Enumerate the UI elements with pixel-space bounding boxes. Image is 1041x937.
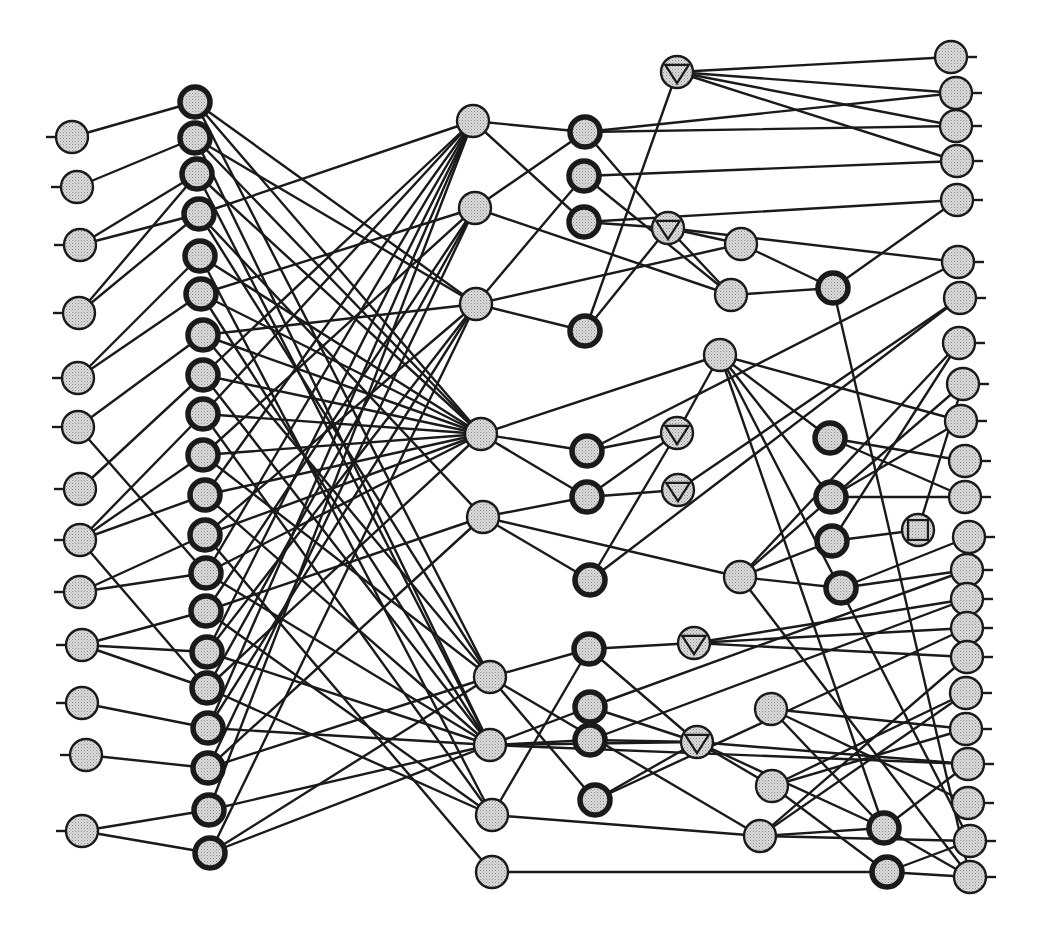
node-O15-output[interactable]: [951, 583, 983, 615]
node-F6-hidden-bold[interactable]: [869, 813, 899, 843]
node-O2-output[interactable]: [940, 77, 972, 109]
node-F4-hidden-bold[interactable]: [817, 526, 847, 556]
node-O1-output[interactable]: [935, 41, 967, 73]
node-circle: [191, 596, 221, 626]
node-circle: [575, 692, 605, 722]
node-O9-output[interactable]: [947, 368, 979, 400]
node-B2-hidden-bold[interactable]: [180, 123, 210, 153]
node-B6-hidden-bold[interactable]: [186, 279, 216, 309]
node-C8-hidden[interactable]: [476, 799, 508, 831]
node-B10-hidden-bold[interactable]: [188, 440, 218, 470]
node-E2-hidden[interactable]: [715, 279, 747, 311]
node-D10-hidden-bold[interactable]: [575, 725, 605, 755]
node-D4-hidden-bold[interactable]: [570, 316, 600, 346]
node-circle: [569, 207, 599, 237]
node-I4-input[interactable]: [63, 297, 95, 329]
node-S1-square[interactable]: [902, 514, 934, 546]
node-O10-output[interactable]: [945, 405, 977, 437]
node-F3-hidden-bold[interactable]: [816, 482, 846, 512]
node-T3-triangle[interactable]: [661, 417, 693, 449]
node-F1-hidden-bold[interactable]: [818, 273, 848, 303]
node-B14-hidden-bold[interactable]: [191, 596, 221, 626]
node-I3-input[interactable]: [64, 229, 96, 261]
node-B7-hidden-bold[interactable]: [188, 320, 218, 350]
node-O17-output[interactable]: [951, 641, 983, 673]
node-C5-hidden[interactable]: [467, 501, 499, 533]
node-B12-hidden-bold[interactable]: [190, 520, 220, 550]
node-B20-hidden-bold[interactable]: [195, 838, 225, 868]
node-B9-hidden-bold[interactable]: [188, 399, 218, 429]
node-O14-output[interactable]: [951, 554, 983, 586]
node-O18-output[interactable]: [950, 677, 982, 709]
node-D3-hidden-bold[interactable]: [569, 207, 599, 237]
node-O13-output[interactable]: [953, 521, 985, 553]
node-I13-input[interactable]: [66, 815, 98, 847]
node-C7-hidden[interactable]: [474, 729, 506, 761]
node-C3-hidden[interactable]: [460, 288, 492, 320]
node-B18-hidden-bold[interactable]: [193, 753, 223, 783]
node-O12-output[interactable]: [949, 481, 981, 513]
node-I1-input[interactable]: [56, 121, 88, 153]
node-E4-hidden[interactable]: [724, 561, 756, 593]
node-I5-input[interactable]: [62, 362, 94, 394]
node-T6-triangle[interactable]: [681, 726, 713, 758]
node-E1-hidden[interactable]: [725, 228, 757, 260]
node-I9-input[interactable]: [64, 576, 96, 608]
node-O22-output[interactable]: [954, 825, 986, 857]
node-B13-hidden-bold[interactable]: [191, 558, 221, 588]
node-D6-hidden-bold[interactable]: [572, 482, 602, 512]
node-I12-input[interactable]: [70, 739, 102, 771]
node-O7-output[interactable]: [944, 282, 976, 314]
node-O20-output[interactable]: [952, 748, 984, 780]
node-F5-hidden-bold[interactable]: [826, 573, 856, 603]
node-C2-hidden[interactable]: [459, 192, 491, 224]
node-O19-output[interactable]: [950, 713, 982, 745]
node-O11-output[interactable]: [949, 445, 981, 477]
node-O23-output[interactable]: [954, 861, 986, 893]
node-D8-hidden-bold[interactable]: [574, 634, 604, 664]
node-D11-hidden-bold[interactable]: [580, 785, 610, 815]
node-I6-input[interactable]: [62, 411, 94, 443]
node-B19-hidden-bold[interactable]: [194, 795, 224, 825]
node-I8-input[interactable]: [64, 524, 96, 556]
node-D1-hidden-bold[interactable]: [570, 117, 600, 147]
node-B11-hidden-bold[interactable]: [190, 480, 220, 510]
node-I7-input[interactable]: [64, 473, 96, 505]
node-B4-hidden-bold[interactable]: [184, 199, 214, 229]
node-T5-triangle[interactable]: [678, 627, 710, 659]
node-O6-output[interactable]: [942, 246, 974, 278]
node-B5-hidden-bold[interactable]: [185, 241, 215, 271]
node-C6-hidden[interactable]: [474, 661, 506, 693]
node-O21-output[interactable]: [952, 787, 984, 819]
node-C9-hidden[interactable]: [476, 856, 508, 888]
node-T1-triangle[interactable]: [661, 56, 693, 88]
node-B1-hidden-bold[interactable]: [180, 87, 210, 117]
node-E3-hidden[interactable]: [704, 339, 736, 371]
node-O4-output[interactable]: [941, 145, 973, 177]
node-D7-hidden-bold[interactable]: [575, 565, 605, 595]
node-O8-output[interactable]: [943, 327, 975, 359]
node-I2-input[interactable]: [61, 171, 93, 203]
node-B15-hidden-bold[interactable]: [192, 637, 222, 667]
node-O5-output[interactable]: [941, 184, 973, 216]
node-O3-output[interactable]: [940, 110, 972, 142]
node-T2-triangle[interactable]: [652, 212, 684, 244]
node-T4-triangle[interactable]: [662, 474, 694, 506]
node-D9-hidden-bold[interactable]: [575, 692, 605, 722]
node-I10-input[interactable]: [66, 629, 98, 661]
node-O16-output[interactable]: [951, 612, 983, 644]
node-B17-hidden-bold[interactable]: [193, 713, 223, 743]
node-C1-hidden[interactable]: [457, 105, 489, 137]
node-E6-hidden[interactable]: [756, 770, 788, 802]
node-B8-hidden-bold[interactable]: [188, 360, 218, 390]
node-E5-hidden[interactable]: [755, 693, 787, 725]
node-D5-hidden-bold[interactable]: [572, 436, 602, 466]
node-I11-input[interactable]: [66, 687, 98, 719]
node-F7-hidden-bold[interactable]: [872, 857, 902, 887]
node-B16-hidden-bold[interactable]: [192, 673, 222, 703]
node-B3-hidden-bold[interactable]: [182, 159, 212, 189]
node-C4-hidden[interactable]: [465, 418, 497, 450]
node-E7-hidden[interactable]: [744, 820, 776, 852]
node-F2-hidden-bold[interactable]: [815, 423, 845, 453]
node-D2-hidden-bold[interactable]: [569, 161, 599, 191]
